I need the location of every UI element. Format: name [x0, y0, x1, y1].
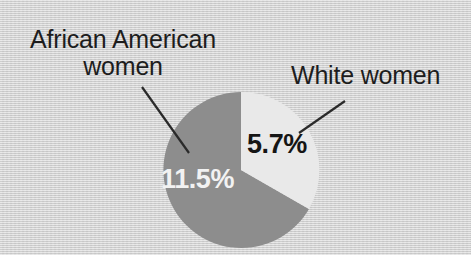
pie-value-white-women: 5.7% [247, 129, 307, 160]
pie-chart-figure: African American women White women 5.7% … [0, 0, 471, 255]
pie-label-white-women: White women [291, 62, 440, 89]
pie-label-african-american-women: African American women [14, 26, 232, 80]
pie-value-african-american-women: 11.5% [161, 164, 234, 195]
